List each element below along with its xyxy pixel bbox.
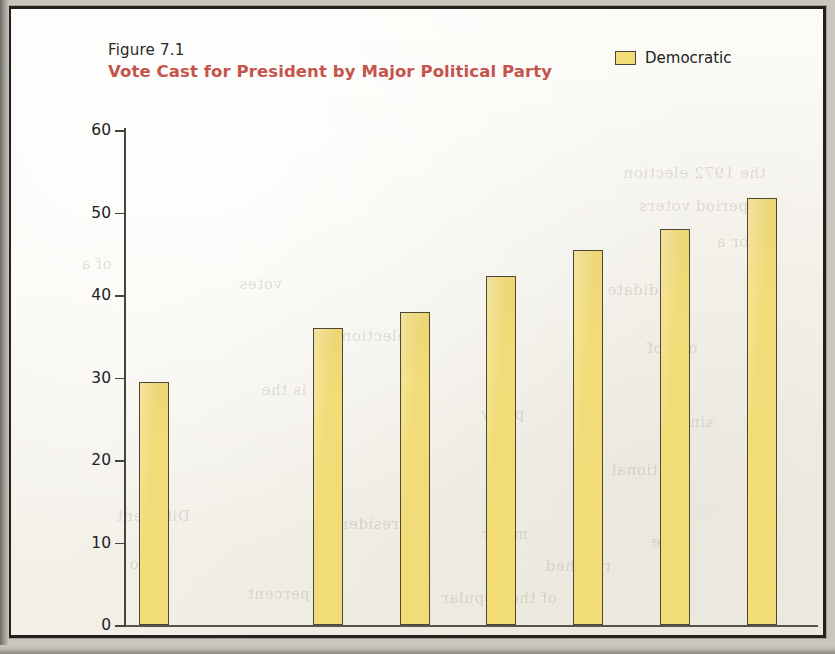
y-tick-mark: [115, 543, 126, 545]
y-tick-mark: [115, 130, 126, 132]
bar-1996: [660, 229, 690, 625]
y-tick-mark: [115, 460, 126, 462]
ghost-text: of a: [81, 255, 112, 273]
figure-frame: the 1972 electionperiod votersfor aof av…: [8, 6, 826, 638]
y-tick-label: 30: [65, 369, 111, 387]
bar-2000: [747, 198, 777, 625]
bar-1972: [139, 382, 169, 625]
scan-edge-bottom: [0, 645, 835, 654]
x-tick-label-1972: 1972: [146, 634, 216, 638]
x-tick-label-1980: 1980: [320, 634, 390, 638]
scanned-page-background: the 1972 electionperiod votersfor aof av…: [0, 0, 835, 654]
y-tick-label: 20: [65, 451, 111, 469]
x-tick-label-2000: 2000: [754, 634, 824, 638]
bar-1984: [400, 312, 430, 626]
y-tick-label: 50: [65, 204, 111, 222]
bar-1988: [486, 276, 516, 625]
x-tick-label-1984: 1984: [407, 634, 477, 638]
x-tick-label-1988: 1988: [493, 634, 563, 638]
figure-title: Vote Cast for President by Major Politic…: [108, 62, 552, 81]
chart-legend: Democratic: [615, 49, 731, 67]
y-tick-mark: [115, 213, 126, 215]
x-tick-label-1992: 1992: [580, 634, 650, 638]
x-axis-line: [124, 625, 818, 627]
y-tick-label: 60: [65, 121, 111, 139]
x-tick-label-1976: 1976: [233, 634, 303, 638]
scan-edge-left: [0, 0, 9, 654]
figure-header: Figure 7.1 Vote Cast for President by Ma…: [108, 41, 552, 81]
bar-1980: [313, 328, 343, 625]
y-tick-mark: [115, 378, 126, 380]
legend-swatch-democratic: [615, 51, 636, 65]
y-tick-label: 40: [65, 286, 111, 304]
plot-area: 0102030405060 19721976198019841988199219…: [124, 130, 818, 625]
figure-number: Figure 7.1: [108, 41, 552, 59]
x-tick-label-1996: 1996: [667, 634, 737, 638]
y-tick-mark: [115, 295, 126, 297]
legend-label-democratic: Democratic: [645, 49, 731, 67]
bar-1992: [573, 250, 603, 625]
y-tick-mark: [115, 625, 126, 627]
y-tick-label: 10: [65, 534, 111, 552]
y-tick-label: 0: [65, 616, 111, 634]
